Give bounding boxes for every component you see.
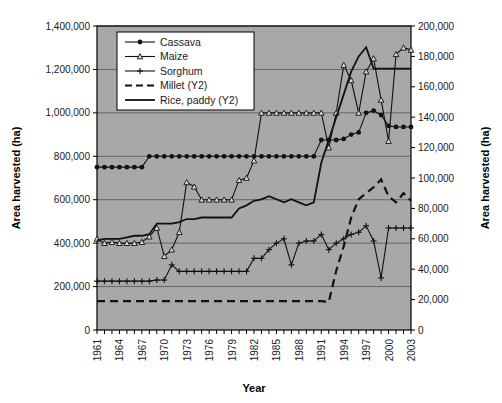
marker-filled-circle: [409, 125, 414, 130]
x-axis-tick-label: 1994: [339, 339, 350, 362]
marker-filled-circle: [139, 165, 144, 170]
marker-filled-circle: [102, 165, 107, 170]
y2-axis-tick-label: 120,000: [418, 142, 455, 153]
legend-marker-filled-circle: [138, 40, 143, 45]
y2-axis-tick-label: 160,000: [418, 81, 455, 92]
marker-filled-circle: [229, 154, 234, 159]
marker-filled-circle: [177, 154, 182, 159]
marker-filled-circle: [162, 154, 167, 159]
x-axis-tick-label: 1979: [227, 339, 238, 362]
marker-filled-circle: [95, 165, 100, 170]
y2-axis-tick-label: 40,000: [418, 264, 449, 275]
y2-axis-tick-label: 100,000: [418, 173, 455, 184]
y-axis-tick-label: 400,000: [54, 238, 91, 249]
x-axis-tick-label: 1997: [361, 339, 372, 362]
y-axis-tick-label: 600,000: [54, 194, 91, 205]
marker-filled-circle: [304, 154, 309, 159]
y-axis-tick-label: 200,000: [54, 281, 91, 292]
marker-filled-circle: [237, 154, 242, 159]
legend-label: Cassava: [160, 36, 201, 48]
marker-filled-circle: [184, 154, 189, 159]
marker-filled-circle: [110, 165, 115, 170]
x-axis-tick-label: 1964: [114, 339, 125, 362]
marker-filled-circle: [296, 154, 301, 159]
y-axis-tick-label: 1,000,000: [46, 107, 91, 118]
x-axis-tick-label: 1976: [204, 339, 215, 362]
marker-filled-circle: [371, 108, 376, 113]
y2-axis-tick-label: 80,000: [418, 203, 449, 214]
area-harvested-line-chart: 0200,000400,000600,000800,0001,000,0001,…: [0, 0, 502, 403]
y2-axis-tick-label: 20,000: [418, 294, 449, 305]
marker-filled-circle: [125, 165, 130, 170]
y2-axis-tick-label: 200,000: [418, 21, 455, 32]
marker-filled-circle: [207, 154, 212, 159]
y2-axis-title: Area harvested (ha): [479, 126, 491, 229]
x-axis-tick-label: 1967: [137, 339, 148, 362]
marker-filled-circle: [334, 138, 339, 143]
y2-axis-tick-label: 60,000: [418, 233, 449, 244]
x-axis-tick-label: 1973: [182, 339, 193, 362]
marker-filled-circle: [192, 154, 197, 159]
marker-filled-circle: [319, 138, 324, 143]
legend-label: Millet (Y2): [160, 79, 207, 91]
y-axis-tick-label: 800,000: [54, 151, 91, 162]
marker-filled-circle: [259, 154, 264, 159]
marker-filled-circle: [341, 137, 346, 142]
marker-filled-circle: [364, 110, 369, 115]
x-axis-tick-label: 1982: [249, 339, 260, 362]
marker-filled-circle: [199, 154, 204, 159]
marker-filled-circle: [379, 113, 384, 118]
marker-filled-circle: [132, 165, 137, 170]
x-axis-tick-label: 1985: [271, 339, 282, 362]
marker-filled-circle: [356, 130, 361, 135]
marker-filled-circle: [289, 154, 294, 159]
x-axis-tick-label: 2003: [406, 339, 417, 362]
marker-filled-circle: [394, 125, 399, 130]
chart-container: 0200,000400,000600,000800,0001,000,0001,…: [0, 0, 502, 403]
marker-filled-circle: [311, 154, 316, 159]
y2-axis-tick-label: 180,000: [418, 51, 455, 62]
x-axis-title: Year: [242, 382, 266, 394]
marker-filled-circle: [147, 154, 152, 159]
marker-filled-circle: [244, 154, 249, 159]
x-axis-tick-label: 1988: [294, 339, 305, 362]
marker-filled-circle: [267, 154, 272, 159]
legend-label: Maize: [160, 50, 188, 62]
y2-axis-tick-label: 0: [418, 325, 424, 336]
marker-filled-circle: [169, 154, 174, 159]
y-axis-tick-label: 0: [84, 325, 90, 336]
marker-filled-circle: [117, 165, 122, 170]
y-axis-title: Area harvested (ha): [10, 126, 22, 229]
x-axis-tick-label: 1970: [159, 339, 170, 362]
marker-filled-circle: [274, 154, 279, 159]
marker-filled-circle: [401, 125, 406, 130]
legend-label: Rice, paddy (Y2): [160, 94, 238, 106]
marker-filled-circle: [154, 154, 159, 159]
x-axis-tick-label: 1961: [92, 339, 103, 362]
marker-filled-circle: [222, 154, 227, 159]
y-axis-tick-label: 1,400,000: [46, 21, 91, 32]
marker-filled-circle: [282, 154, 287, 159]
y2-axis-tick-label: 140,000: [418, 112, 455, 123]
y-axis-tick-label: 1,200,000: [46, 64, 91, 75]
legend-label: Sorghum: [160, 65, 203, 77]
marker-filled-circle: [349, 132, 354, 137]
x-axis-tick-label: 1991: [316, 339, 327, 362]
marker-filled-circle: [214, 154, 219, 159]
x-axis-tick-label: 2000: [384, 339, 395, 362]
